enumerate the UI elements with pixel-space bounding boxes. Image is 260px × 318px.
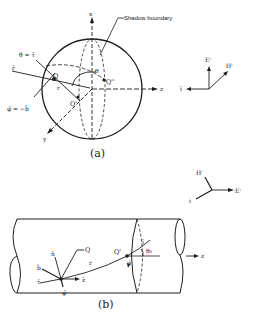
figure-b: Hⁱ Eⁱ i z Q xyxy=(10,169,241,311)
point-Q-label: Q xyxy=(53,72,58,80)
cylinder-right-end xyxy=(175,219,185,255)
r-hat-label: r̂ xyxy=(12,64,15,71)
point-Q-prime xyxy=(76,95,79,98)
phi-eq-label: φ̂ = −b̂ xyxy=(7,105,29,113)
caption-a: (a) xyxy=(90,147,105,160)
i-incident-label: î xyxy=(180,85,182,92)
i-incident-label-b: i xyxy=(189,197,191,204)
y-axis-label: y xyxy=(42,135,47,143)
r-label-b: r xyxy=(89,259,92,266)
shadow-boundary-leader xyxy=(100,18,124,55)
x-axis-label: x xyxy=(89,10,93,17)
phi-hat-label-1: φ̂ xyxy=(62,289,66,297)
point-Q-prime-label-b: Q' xyxy=(114,248,121,256)
b-hat-vector xyxy=(42,269,61,279)
z-axis-label-b: z xyxy=(201,252,204,259)
point-Q-prime-label: Q' xyxy=(70,100,77,108)
b-hat-label: b̂ xyxy=(36,264,41,271)
z-axis-arrow xyxy=(152,87,158,91)
z-axis-b-arrow xyxy=(194,254,199,258)
phi-hat-label-2: φ̂ xyxy=(127,259,131,267)
E-incident-label: Eⁱ xyxy=(205,56,211,63)
theta-label: θ xyxy=(95,67,99,74)
theta-eq-label: θ̂ = τ̂ xyxy=(19,51,35,58)
y-axis xyxy=(50,89,92,131)
incident-triad-a: Eⁱ Hⁱ î xyxy=(180,56,233,92)
point-Q-prime-b xyxy=(125,254,129,258)
H-incident-label-b: Hⁱ xyxy=(196,169,203,176)
caption-b: (b) xyxy=(98,298,114,311)
cylinder-left-end-inner xyxy=(17,256,21,293)
i-hat-label: î xyxy=(142,238,144,245)
r-label: r xyxy=(57,84,60,91)
theta0-label: θ₀ xyxy=(146,247,153,254)
figure-a: Shadow boundary x z y θ̂ = τ̂ r̂ φ̂ = −b… xyxy=(7,10,233,160)
point-Q-double-prime-label: Q'' xyxy=(106,78,115,86)
Q-leader xyxy=(61,250,84,279)
x-axis-arrow xyxy=(90,17,94,23)
incident-triad-b: Hⁱ Eⁱ i xyxy=(189,169,241,204)
n-hat-label: n̂ xyxy=(51,250,55,257)
point-Q-label-b: Q xyxy=(85,246,90,254)
tau-hat-label: τ̂ xyxy=(37,278,41,285)
diagram-canvas: Shadow boundary x z y θ̂ = τ̂ r̂ φ̂ = −b… xyxy=(0,0,260,318)
cylinder-right-end-lower xyxy=(180,255,183,293)
E-incident-label-b: Eⁱ xyxy=(235,187,241,194)
H-incident-label: Hⁱ xyxy=(226,62,233,69)
z-hat-label: ẑ xyxy=(82,276,85,283)
shadow-boundary-label: Shadow boundary xyxy=(124,15,172,21)
z-hat-arrow xyxy=(75,277,80,281)
cylinder-left-end xyxy=(10,219,17,293)
z-axis-label: z xyxy=(160,85,163,92)
